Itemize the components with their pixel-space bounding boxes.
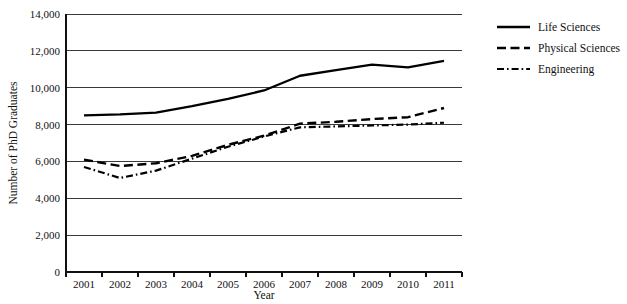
y-tick-label: 8,000 (35, 119, 60, 131)
y-axis-tick-labels: 02,0004,0006,0008,00010,00012,00014,000 (30, 8, 61, 278)
y-tick-label: 10,000 (30, 82, 61, 94)
x-tick-label: 2007 (289, 278, 312, 290)
x-tick-label: 2011 (433, 278, 455, 290)
x-tick-label: 2009 (361, 278, 384, 290)
x-tick-label: 2002 (109, 278, 131, 290)
series-line-physical-sciences (84, 108, 444, 166)
y-tick-label: 14,000 (30, 8, 61, 20)
y-tick-label: 0 (55, 266, 61, 278)
chart-container: 02,0004,0006,0008,00010,00012,00014,000 … (0, 0, 627, 304)
x-tick-label: 2005 (217, 278, 240, 290)
legend-label: Engineering (538, 63, 594, 76)
y-tick-label: 12,000 (30, 45, 61, 57)
y-tick-label: 2,000 (35, 229, 60, 241)
x-tick-label: 2003 (145, 278, 168, 290)
x-tick-label: 2004 (181, 278, 204, 290)
y-tick-label: 6,000 (35, 155, 60, 167)
series-line-engineering (84, 123, 444, 178)
x-tick-label: 2010 (397, 278, 420, 290)
legend-label: Physical Sciences (538, 42, 621, 55)
chart-legend: Life SciencesPhysical SciencesEngineerin… (497, 21, 621, 76)
x-axis-title: Year (253, 289, 274, 301)
y-tick-label: 4,000 (35, 192, 60, 204)
y-axis-title: Number of PhD Graduates (7, 81, 19, 204)
x-tick-label: 2001 (73, 278, 95, 290)
line-chart-figure: 02,0004,0006,0008,00010,00012,00014,000 … (0, 0, 627, 304)
legend-label: Life Sciences (538, 21, 601, 33)
x-axis-ticks (66, 272, 462, 277)
data-series-group (84, 61, 444, 178)
x-tick-label: 2008 (325, 278, 348, 290)
